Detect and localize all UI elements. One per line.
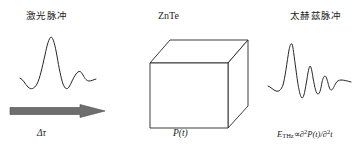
- cube-front-face: [150, 63, 228, 128]
- znte-crystal-cube: [150, 40, 248, 128]
- thz-pulse-waveform: [268, 44, 351, 98]
- laser-pulse-waveform: [20, 37, 96, 89]
- thz-generation-diagram: 激光脉冲 ZnTe 太赫兹脉冲 χ(2) Δτ P(t) ETHz∝∂2P(t)…: [0, 0, 354, 155]
- diagram-canvas: [0, 0, 354, 155]
- pump-beam-arrow: [10, 105, 105, 118]
